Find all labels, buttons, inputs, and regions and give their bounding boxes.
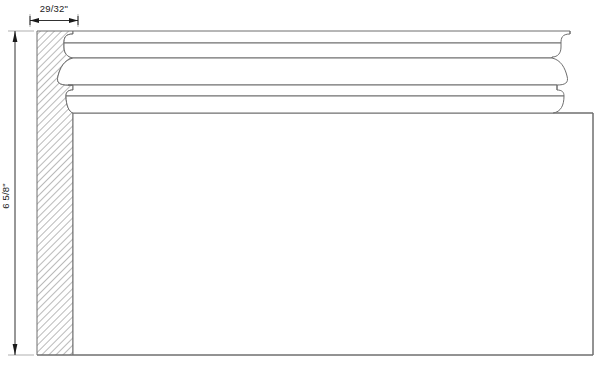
height-arrow-top <box>13 31 18 42</box>
width-arrow-right <box>69 18 78 23</box>
molding-body-face <box>73 113 593 355</box>
technical-drawing-canvas: 29/32" 6 5/8" <box>0 0 605 367</box>
width-arrow-left <box>30 18 39 23</box>
height-arrow-bottom <box>13 344 18 355</box>
molding-profile-svg: 29/32" 6 5/8" <box>0 0 605 367</box>
band-top-fillet <box>64 31 570 43</box>
band-upper-bead <box>64 43 561 58</box>
dimension-height-group: 6 5/8" <box>0 31 34 355</box>
band-large-cove <box>57 58 567 85</box>
band-mid-fillet <box>66 85 564 96</box>
dimension-width-group: 29/32" <box>30 3 78 27</box>
width-dimension-label: 29/32" <box>40 3 68 14</box>
height-dimension-label: 6 5/8" <box>0 183 11 209</box>
band-lower-bead <box>66 96 564 113</box>
